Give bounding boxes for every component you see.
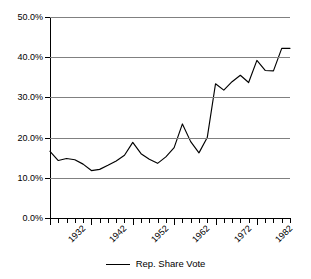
- y-axis-label-20: 20.0%: [17, 134, 43, 143]
- chart-container: 0.0%10.0%20.0%30.0%40.0%50.0% Rep. Share…: [0, 0, 311, 279]
- x-tick-1948: [116, 219, 117, 223]
- x-tick-1958: [158, 219, 159, 223]
- x-tick-1988: [282, 219, 283, 223]
- y-tick-10: [45, 178, 50, 179]
- x-tick-1942: [91, 219, 92, 225]
- x-tick-1964: [182, 219, 183, 223]
- x-axis-label-1962: 1962: [191, 224, 212, 245]
- x-axis-line: [50, 218, 291, 219]
- x-tick-1966: [191, 219, 192, 223]
- x-axis-label-1982: 1982: [274, 224, 295, 245]
- y-tick-30: [45, 97, 50, 98]
- gridline-y-50: [50, 17, 290, 18]
- gridline-y-30: [50, 97, 290, 98]
- chart-legend: Rep. Share Vote: [0, 259, 311, 269]
- y-tick-20: [45, 138, 50, 139]
- x-tick-1968: [199, 219, 200, 223]
- y-axis-label-10: 10.0%: [17, 174, 43, 183]
- gridline-y-20: [50, 138, 290, 139]
- x-tick-1962: [174, 219, 175, 225]
- x-tick-1970: [207, 219, 208, 223]
- y-axis-label-0: 0.0%: [22, 214, 43, 223]
- x-axis-label-1972: 1972: [232, 224, 253, 245]
- y-axis-label-30: 30.0%: [17, 93, 43, 102]
- plot-area: 0.0%10.0%20.0%30.0%40.0%50.0%: [50, 17, 290, 218]
- x-tick-1990: [290, 219, 291, 223]
- x-tick-1954: [141, 219, 142, 223]
- x-tick-1946: [108, 219, 109, 223]
- x-tick-1938: [75, 219, 76, 223]
- gridline-y-10: [50, 178, 290, 179]
- x-tick-1950: [124, 219, 125, 223]
- gridline-y-40: [50, 57, 290, 58]
- x-axis-label-1932: 1932: [67, 224, 88, 245]
- x-tick-1984: [265, 219, 266, 223]
- x-tick-1972: [216, 219, 217, 225]
- x-tick-1956: [149, 219, 150, 223]
- x-tick-1932: [50, 219, 51, 225]
- legend-label-rep-share-vote: Rep. Share Vote: [136, 259, 206, 269]
- y-axis-label-50: 50.0%: [17, 13, 43, 22]
- legend-line-swatch: [106, 264, 130, 265]
- x-axis-label-1952: 1952: [150, 224, 171, 245]
- x-tick-1978: [240, 219, 241, 223]
- x-tick-1974: [224, 219, 225, 223]
- y-tick-40: [45, 57, 50, 58]
- x-axis-label-1942: 1942: [108, 224, 129, 245]
- x-tick-1934: [58, 219, 59, 223]
- series-rep-share-vote: [50, 17, 290, 218]
- x-tick-1940: [83, 219, 84, 223]
- x-tick-1944: [100, 219, 101, 223]
- x-tick-1982: [257, 219, 258, 225]
- x-tick-1960: [166, 219, 167, 223]
- y-tick-50: [45, 17, 50, 18]
- x-tick-1976: [232, 219, 233, 223]
- x-tick-1936: [67, 219, 68, 223]
- y-axis-label-40: 40.0%: [17, 53, 43, 62]
- x-tick-1952: [133, 219, 134, 225]
- x-tick-1986: [273, 219, 274, 223]
- series-line: [50, 48, 290, 170]
- x-tick-1980: [249, 219, 250, 223]
